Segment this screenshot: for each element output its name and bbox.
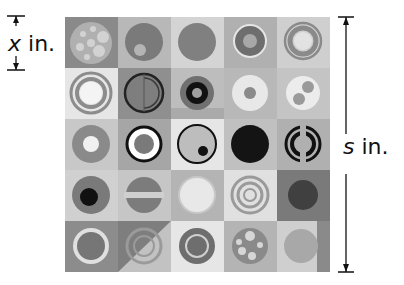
outline-with-dot-icon: [171, 119, 224, 170]
tile-2-5: [277, 68, 330, 119]
solid-black-circle-icon: [224, 119, 277, 170]
dark-outline-rings-icon: [118, 68, 171, 119]
side-length-label: s in.: [343, 134, 389, 159]
concentric-rings-icon: [277, 17, 330, 68]
quilt-grid: [65, 17, 330, 272]
tile-1-1: [65, 17, 118, 68]
tile-2-2: [118, 68, 171, 119]
tile-3-3: [171, 119, 224, 170]
tile-5-5: [277, 221, 330, 272]
two-dots-circle-icon: [277, 68, 330, 119]
diagonal-split-icon: [118, 221, 171, 272]
tile-3-2: [118, 119, 171, 170]
tile-4-3: [171, 170, 224, 221]
tile-5-1: [65, 221, 118, 272]
dark-fuzzy-circle-icon: [277, 170, 330, 221]
ring-circle-icon: [224, 17, 277, 68]
split-rings-icon: [277, 119, 330, 170]
tile-2-4: [224, 68, 277, 119]
solid-circle-icon: [171, 17, 224, 68]
striped-circle-icon: [118, 170, 171, 221]
tile-5-2: [118, 221, 171, 272]
tile-size-label: x in.: [8, 31, 55, 56]
tile-4-4: [224, 170, 277, 221]
tile-4-2: [118, 170, 171, 221]
side-var: s: [343, 134, 354, 159]
ring-dark-icon: [171, 221, 224, 272]
tile-3-1: [65, 119, 118, 170]
circle-dot-icon: [118, 17, 171, 68]
black-ring-circle-icon: [118, 119, 171, 170]
tile-1-2: [118, 17, 171, 68]
tile-4-5: [277, 170, 330, 221]
tile-2-1: [65, 68, 118, 119]
dots-circle-icon: [65, 17, 118, 68]
tile-var: x: [8, 31, 21, 56]
tile-5-3: [171, 221, 224, 272]
black-ring-donut-icon: [171, 68, 224, 119]
tile-1-4: [224, 17, 277, 68]
double-ring-icon: [65, 68, 118, 119]
tile-3-5: [277, 119, 330, 170]
dots-circle-2-icon: [224, 221, 277, 272]
side-unit: in.: [361, 134, 388, 159]
plain-circle-icon: [277, 221, 330, 272]
tile-unit: in.: [28, 31, 55, 56]
tile-1-5: [277, 17, 330, 68]
light-ring-circle-icon: [65, 221, 118, 272]
triple-rings-icon: [224, 170, 277, 221]
tile-2-3: [171, 68, 224, 119]
tile-5-4: [224, 221, 277, 272]
light-circle-icon: [171, 170, 224, 221]
tile-1-3: [171, 17, 224, 68]
tile-4-1: [65, 170, 118, 221]
donut-icon: [65, 119, 118, 170]
light-ring-dot-icon: [224, 68, 277, 119]
circle-black-center-icon: [65, 170, 118, 221]
tile-3-4: [224, 119, 277, 170]
